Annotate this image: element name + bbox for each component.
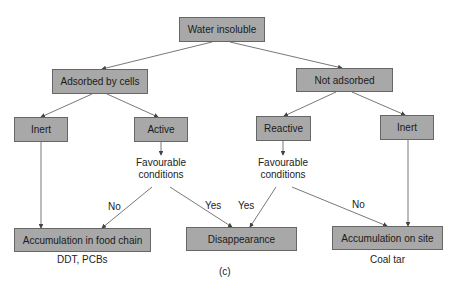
edge-label-left-yes: Yes bbox=[205, 200, 221, 212]
node-accumulation-on-site: Accumulation on site bbox=[332, 226, 443, 250]
condition-right-line2: conditions bbox=[248, 169, 318, 181]
figure-caption: (c) bbox=[219, 266, 231, 278]
condition-right-line1: Favourable bbox=[248, 157, 318, 169]
node-accumulation-food-chain: Accumulation in food chain bbox=[14, 228, 151, 252]
node-adsorbed-by-cells: Adsorbed by cells bbox=[52, 69, 148, 94]
condition-left: Favourable conditions bbox=[126, 157, 196, 181]
condition-left-line2: conditions bbox=[126, 169, 196, 181]
node-inert-right: Inert bbox=[380, 115, 434, 140]
node-water-insoluble: Water insoluble bbox=[179, 17, 265, 42]
node-reactive: Reactive bbox=[256, 116, 311, 141]
edge-label-left-no: No bbox=[108, 201, 121, 213]
node-disappearance: Disappearance bbox=[186, 227, 297, 251]
example-on-site: Coal tar bbox=[370, 254, 405, 266]
condition-right: Favourable conditions bbox=[248, 157, 318, 181]
edge-label-right-no: No bbox=[352, 199, 365, 211]
condition-left-line1: Favourable bbox=[126, 157, 196, 169]
edge-label-right-yes: Yes bbox=[238, 200, 254, 212]
node-active: Active bbox=[134, 117, 188, 142]
example-food-chain: DDT, PCBs bbox=[57, 254, 108, 266]
node-not-adsorbed: Not adsorbed bbox=[296, 68, 393, 92]
node-inert-left: Inert bbox=[14, 117, 68, 142]
